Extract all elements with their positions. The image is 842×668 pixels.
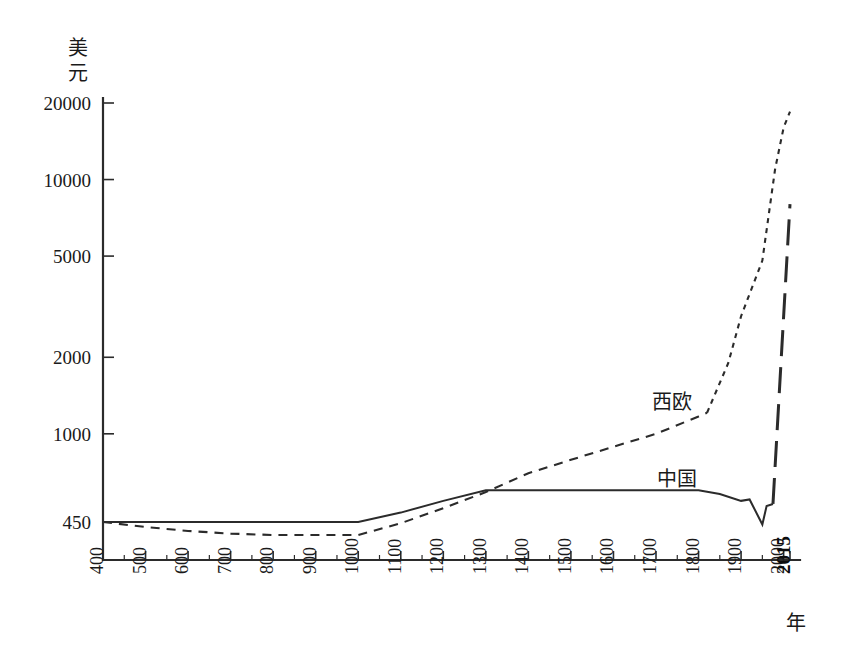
line-chart: 美 元 4501000200050001000020000 4005006007… bbox=[0, 0, 842, 668]
series-line-western-europe-modern bbox=[707, 112, 790, 413]
x-tick-label-1000: 1000 bbox=[342, 538, 362, 574]
x-axis-unit-label: 年 bbox=[786, 611, 806, 635]
x-tick-label-600: 600 bbox=[172, 547, 192, 574]
x-tick-label-800: 800 bbox=[257, 547, 277, 574]
x-tick-label-1700: 1700 bbox=[640, 538, 660, 574]
y-tick-label-1000: 1000 bbox=[53, 424, 91, 445]
y-axis-unit-char-1: 美 bbox=[68, 36, 88, 60]
x-tick-label-1800: 1800 bbox=[683, 538, 703, 574]
x-tick-label-1400: 1400 bbox=[512, 538, 532, 574]
x-tick-label-1300: 1300 bbox=[470, 538, 490, 574]
x-tick-label-1500: 1500 bbox=[555, 538, 575, 574]
y-axis-unit-label: 美 元 bbox=[68, 36, 88, 85]
x-tick-label-1900: 1900 bbox=[725, 538, 745, 574]
y-tick-label-450: 450 bbox=[63, 512, 92, 533]
series-line-china-recent bbox=[773, 204, 790, 504]
x-tick-label-700: 700 bbox=[215, 547, 235, 574]
x-tick-label-500: 500 bbox=[130, 547, 150, 574]
series-line-china bbox=[103, 490, 773, 524]
y-axis-tick-labels: 4501000200050001000020000 bbox=[44, 93, 92, 533]
series-line-western-europe bbox=[103, 413, 707, 535]
series-label-china: 中国 bbox=[657, 467, 697, 491]
x-tick-label-1100: 1100 bbox=[385, 539, 405, 574]
y-tick-label-5000: 5000 bbox=[53, 246, 91, 267]
y-tick-label-2000: 2000 bbox=[53, 347, 91, 368]
y-tick-label-20000: 20000 bbox=[44, 93, 92, 114]
chart-container: 美 元 4501000200050001000020000 4005006007… bbox=[0, 0, 842, 668]
y-tick-label-10000: 10000 bbox=[44, 170, 92, 191]
series-label-western-europe: 西欧 bbox=[652, 390, 692, 414]
y-axis-unit-char-2: 元 bbox=[68, 61, 88, 85]
x-axis-tick-labels: 4005006007008009001000110012001300140015… bbox=[87, 536, 794, 574]
x-tick-label-2015: 2015 bbox=[773, 536, 794, 574]
x-tick-label-900: 900 bbox=[300, 547, 320, 574]
x-tick-label-400: 400 bbox=[87, 547, 107, 574]
x-tick-label-1600: 1600 bbox=[597, 538, 617, 574]
y-axis-ticks bbox=[103, 103, 114, 522]
x-tick-label-1200: 1200 bbox=[427, 538, 447, 574]
